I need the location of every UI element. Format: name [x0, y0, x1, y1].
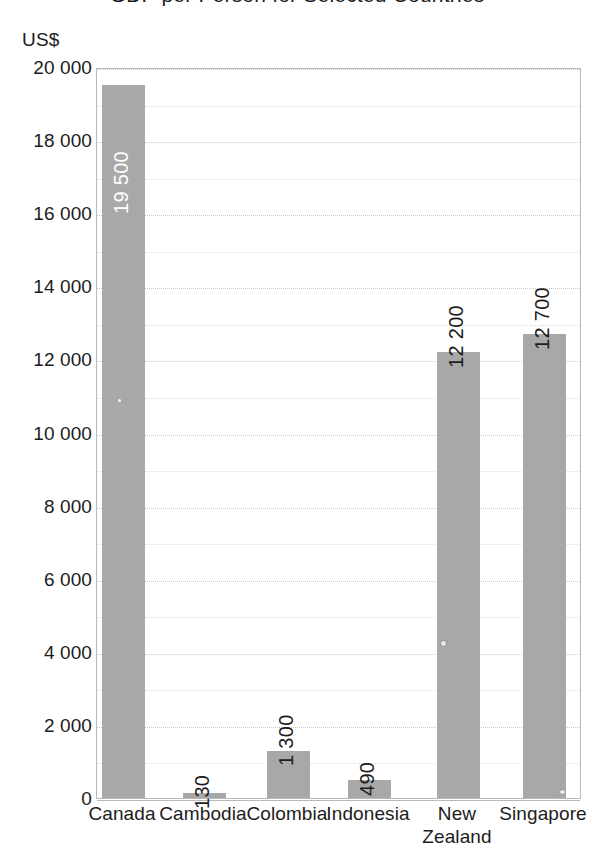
- bar-chart: GDP per Person for Selected Countries US…: [0, 0, 594, 858]
- gridline-3000: [97, 690, 580, 691]
- gridline-13000: [97, 325, 580, 326]
- bar-value-label-colombia: 1 300: [275, 715, 298, 767]
- y-tick-label: 18 000: [4, 130, 92, 152]
- gridline-1000: [97, 763, 580, 764]
- gridline-12000: [97, 361, 580, 362]
- scan-speck: [118, 399, 121, 402]
- gridline-17000: [97, 179, 580, 180]
- gridline-18000: [97, 142, 580, 143]
- plot-area: 19 5001301 30049012 20012 700: [96, 68, 581, 799]
- gridline-0: [97, 800, 580, 801]
- y-tick-label: 12 000: [4, 349, 92, 371]
- bar-new-zealand[interactable]: [437, 352, 480, 798]
- y-tick-label: 14 000: [4, 276, 92, 298]
- gridline-4000: [97, 654, 580, 655]
- gridline-11000: [97, 398, 580, 399]
- gridline-10000: [97, 435, 580, 436]
- x-label-singapore: Singapore: [491, 802, 594, 825]
- gridline-14000: [97, 288, 580, 289]
- y-tick-label: 2 000: [4, 715, 92, 737]
- gridline-15000: [97, 252, 580, 253]
- gridline-8000: [97, 508, 580, 509]
- y-tick-label: 8 000: [4, 496, 92, 518]
- gridline-19000: [97, 106, 580, 107]
- x-label-line: Singapore: [491, 802, 594, 825]
- bar-value-label-canada: 19 500: [110, 151, 133, 214]
- gridline-7000: [97, 544, 580, 545]
- gridline-6000: [97, 581, 580, 582]
- y-tick-label: 16 000: [4, 203, 92, 225]
- bar-value-label-singapore: 12 700: [531, 287, 554, 350]
- bar-singapore[interactable]: [523, 334, 566, 798]
- gridline-20000: [97, 69, 580, 70]
- scan-speck: [440, 640, 447, 647]
- y-tick-label: 10 000: [4, 423, 92, 445]
- bar-value-label-indonesia: 490: [356, 762, 379, 796]
- gridline-9000: [97, 471, 580, 472]
- gridline-16000: [97, 215, 580, 216]
- chart-title: GDP per Person for Selected Countries: [0, 0, 594, 7]
- x-label-line: Zealand: [405, 825, 509, 848]
- gridline-2000: [97, 727, 580, 728]
- y-axis-unit-label: US$: [22, 29, 60, 51]
- scan-speck: [559, 789, 566, 795]
- x-axis-category-labels: CanadaCambodiaColombiaIndonesiaNewZealan…: [96, 802, 581, 858]
- y-tick-label: 4 000: [4, 642, 92, 664]
- y-tick-label: 6 000: [4, 569, 92, 591]
- bar-value-label-new-zealand: 12 200: [445, 305, 468, 368]
- gridline-5000: [97, 617, 580, 618]
- y-axis-tick-labels: 02 0004 0006 0008 00010 00012 00014 0001…: [0, 68, 92, 799]
- y-tick-label: 20 000: [4, 57, 92, 79]
